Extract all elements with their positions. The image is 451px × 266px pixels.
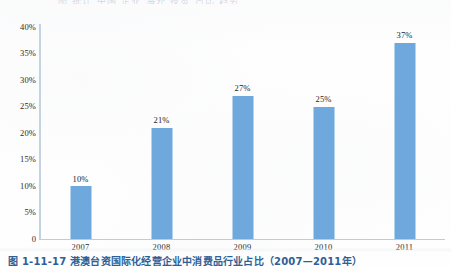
bar[interactable] [313,107,334,240]
plot-area: 10%21%27%25%37% [40,27,445,239]
y-tick-label: 25% [2,102,36,111]
x-tick-label: 2011 [364,242,445,253]
bar-value-label: 10% [73,175,89,184]
bar[interactable] [394,43,415,239]
bar-value-label: 27% [235,84,251,93]
y-tick-label: 35% [2,49,36,58]
y-tick-label: 40% [2,23,36,32]
bar-group: 27% [202,27,283,239]
x-axis-tick-labels: 20072008200920102011 [40,242,445,256]
scanned-page: 图 统计 中国 企业 海外 投资 占比 趋势 05%10%15%20%25%30… [0,0,451,266]
bar-group: 37% [364,27,445,239]
y-tick-label: 20% [2,129,36,138]
bar-group: 10% [40,27,121,239]
y-tick-label: 5% [2,208,36,217]
y-tick-label: 30% [2,76,36,85]
y-tick-label: 15% [2,155,36,164]
bar[interactable] [232,96,253,239]
figure-caption: 图 1-11-17 港澳台资国际化经营企业中消费品行业占比（2007—2011年… [8,256,448,266]
y-tick-label: 10% [2,182,36,191]
x-tick-label: 2009 [202,242,283,253]
bar-value-label: 21% [154,116,170,125]
x-tick-label: 2007 [40,242,121,253]
y-tick-label: 0 [2,235,36,244]
bar-value-label: 37% [397,31,413,40]
bar-chart-figure: 05%10%15%20%25%30%35%40% 10%21%27%25%37%… [0,8,451,254]
bar-group: 25% [283,27,364,239]
x-tick-label: 2010 [283,242,364,253]
clipped-header-text: 图 统计 中国 企业 海外 投资 占比 趋势 [58,0,388,4]
x-tick-label: 2008 [121,242,202,253]
y-axis-tick-labels: 05%10%15%20%25%30%35%40% [0,27,36,239]
bar-value-label: 25% [316,95,332,104]
bar[interactable] [151,128,172,239]
bar[interactable] [70,186,91,239]
bar-group: 21% [121,27,202,239]
